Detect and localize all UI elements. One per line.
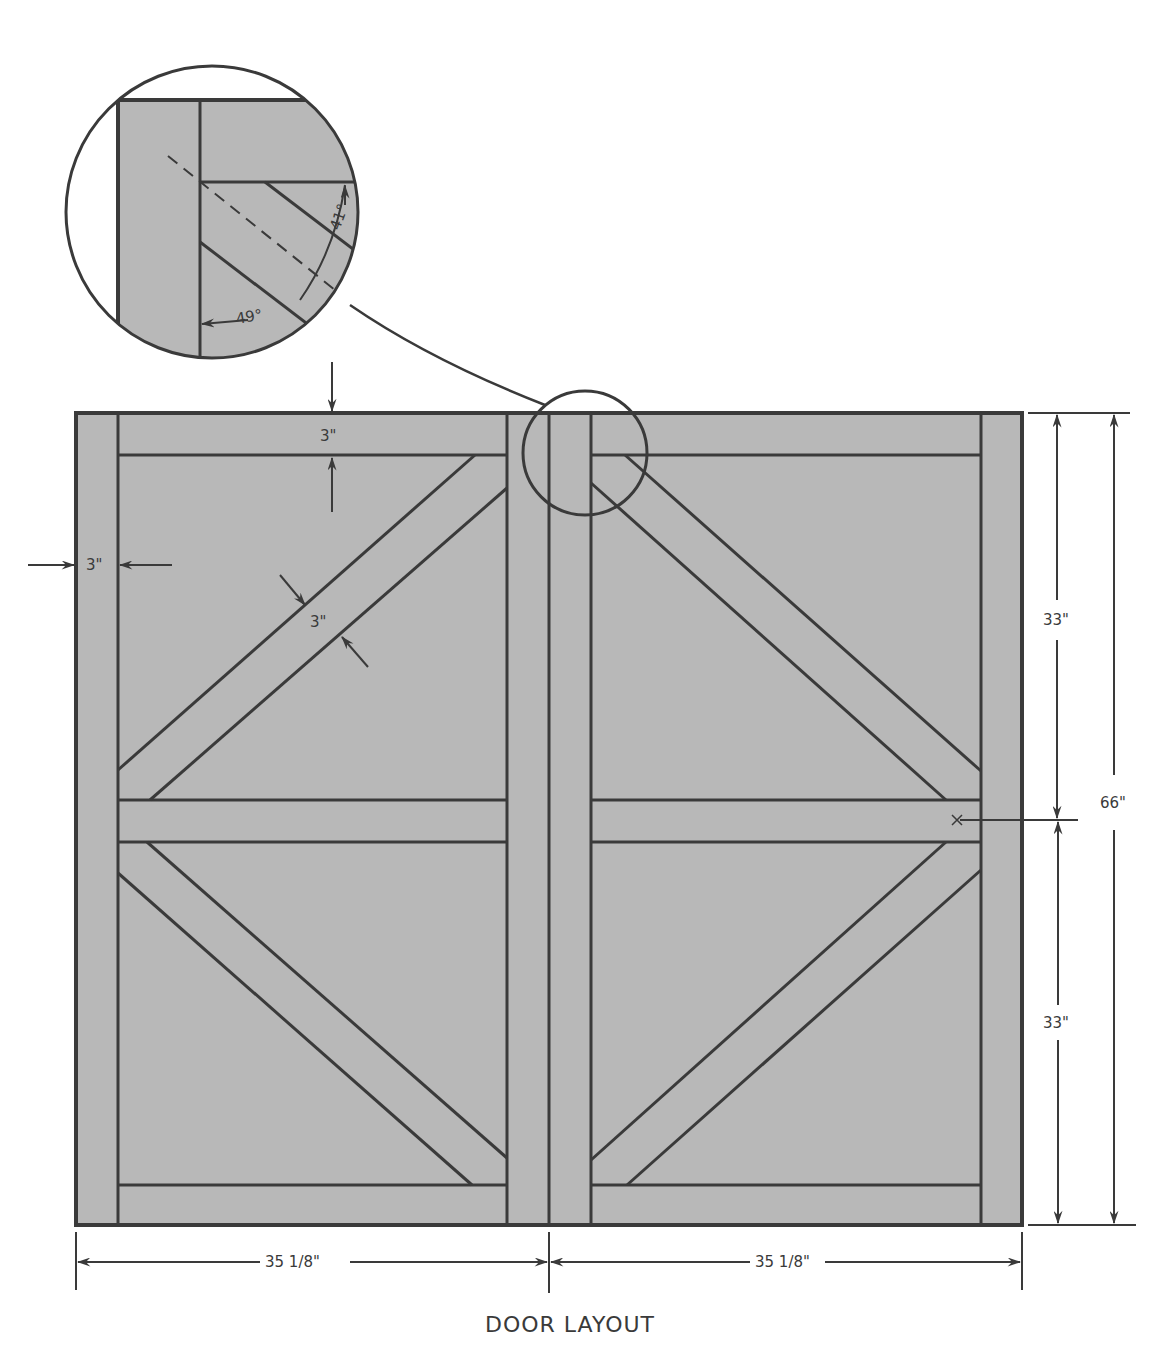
top-rail-width-label: 3"	[320, 427, 336, 445]
detail-leader-line	[350, 305, 545, 405]
drawing-title: DOOR LAYOUT	[485, 1312, 655, 1337]
door-assembly	[76, 305, 1022, 1225]
brace-width-label: 3"	[310, 613, 326, 631]
door-layout-drawing: 41° 49°	[0, 0, 1163, 1366]
upper-height-label: 33"	[1043, 611, 1069, 629]
stile-width-label: 3"	[86, 556, 102, 574]
right-width-label: 35 1/8"	[755, 1253, 810, 1271]
total-height-label: 66"	[1100, 794, 1126, 812]
left-width-label: 35 1/8"	[265, 1253, 320, 1271]
joint-detail: 41° 49°	[66, 66, 420, 410]
lower-height-label: 33"	[1043, 1014, 1069, 1032]
